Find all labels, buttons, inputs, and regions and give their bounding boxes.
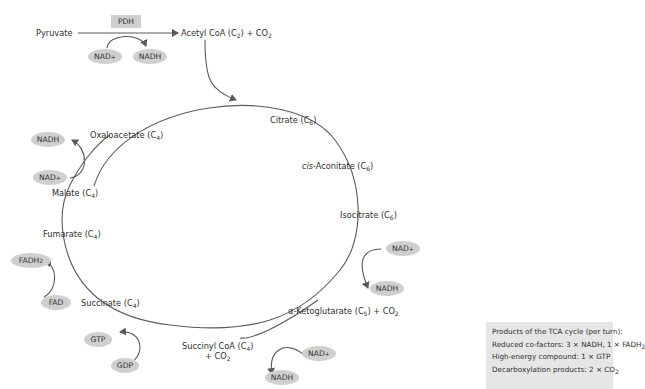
cis-prefix: cis bbox=[302, 161, 313, 171]
summary-line1-sub: 2 bbox=[641, 343, 645, 350]
isocitrate-text: Isocitrate (C bbox=[340, 210, 390, 220]
acetyl-coa-label: Acetyl CoA (C2) + CO2 bbox=[181, 28, 272, 38]
summary-line3-text: Decarboxylation products: 2 × CO bbox=[492, 365, 615, 374]
gdp-pill: GDP bbox=[111, 358, 139, 373]
nad-plus-pill-alpha-kg: NAD+ bbox=[302, 346, 336, 361]
summary-decarboxylation: Decarboxylation products: 2 × CO2 bbox=[492, 364, 613, 377]
succinyl-coa-co2: + CO bbox=[205, 351, 227, 361]
nad-text: NAD bbox=[94, 52, 111, 61]
pdh-enzyme-box: PDH bbox=[111, 15, 141, 28]
fumarate-text: Fumarate (C bbox=[43, 229, 94, 239]
acetyl-coa-text: Acetyl CoA (C bbox=[181, 28, 237, 38]
malate-text: Malate (C bbox=[52, 188, 91, 198]
pdh-text: PDH bbox=[118, 17, 134, 26]
gtp-pill: GTP bbox=[84, 332, 112, 347]
succinate-tail: ) bbox=[136, 298, 139, 308]
oxaloacetate-label: Oxaloacetate (C4) bbox=[90, 130, 163, 140]
fadh2-pill: FADH2 bbox=[11, 253, 51, 268]
summary-reduced-cofactors: Reduced co-factors: 3 × NADH, 1 × FADH2 bbox=[492, 339, 613, 352]
nadh-text: NADH bbox=[271, 373, 293, 382]
succinate-text: Succinate (C bbox=[81, 298, 133, 308]
gtp-text: GTP bbox=[91, 335, 106, 344]
nadh-pill-alpha-kg: NADH bbox=[265, 370, 299, 385]
nadh-pill-pdh: NADH bbox=[133, 49, 167, 64]
citrate-tail: ) bbox=[313, 115, 316, 125]
alpha-ketoglutarate-label: α-Ketoglutarate (C5) + CO2 bbox=[288, 306, 399, 316]
malate-tail: ) bbox=[95, 188, 98, 198]
summary-title: Products of the TCA cycle (per turn): bbox=[492, 326, 613, 339]
nad-plus-pill-isocitrate: NAD+ bbox=[386, 241, 420, 256]
malate-label: Malate (C4) bbox=[52, 188, 98, 198]
co2-sub: 2 bbox=[268, 32, 272, 39]
oxaloacetate-tail: ) bbox=[160, 130, 163, 140]
nadh-pill-malate: NADH bbox=[31, 132, 65, 147]
succinyl-coa-co2-sub: 2 bbox=[227, 355, 231, 362]
succinate-label: Succinate (C4) bbox=[81, 298, 140, 308]
succinyl-coa-text: Succinyl CoA (C bbox=[182, 341, 246, 351]
summary-line3-sub: 2 bbox=[615, 368, 619, 375]
nad-text: NAD bbox=[392, 244, 409, 253]
succinyl-coa-label: Succinyl CoA (C4) + CO2 bbox=[182, 341, 253, 361]
nadh-text: NADH bbox=[37, 135, 59, 144]
fad-pill: FAD bbox=[41, 295, 71, 310]
succinyl-coa-tail: ) bbox=[250, 341, 253, 351]
fad-text: FAD bbox=[49, 298, 64, 307]
pyruvate-text: Pyruvate bbox=[36, 28, 72, 38]
nad-text: NAD bbox=[308, 349, 325, 358]
cis-aconitate-text: -Aconitate (C bbox=[313, 161, 366, 171]
products-summary-box: Products of the TCA cycle (per turn): Re… bbox=[486, 322, 613, 389]
citrate-text: Citrate (C bbox=[270, 115, 309, 125]
oxaloacetate-text: Oxaloacetate (C bbox=[90, 130, 156, 140]
gdp-text: GDP bbox=[117, 361, 133, 370]
alpha-kg-tail: ) + CO bbox=[367, 306, 394, 316]
nad-plus-pill-malate: NAD+ bbox=[33, 170, 67, 185]
alpha-kg-co2-sub: 2 bbox=[395, 310, 399, 317]
nad-text: NAD bbox=[39, 173, 56, 182]
alpha-kg-text: α-Ketoglutarate (C bbox=[288, 306, 364, 316]
nadh-text: NADH bbox=[376, 284, 398, 293]
acetyl-coa-tail: ) + CO bbox=[241, 28, 268, 38]
nadh-pill-isocitrate: NADH bbox=[370, 281, 404, 296]
fumarate-label: Fumarate (C4) bbox=[43, 229, 101, 239]
summary-high-energy: High-energy compound: 1 × GTP bbox=[492, 351, 613, 364]
pyruvate-label: Pyruvate bbox=[36, 28, 72, 38]
nad-plus-pill-pdh: NAD+ bbox=[88, 49, 122, 64]
summary-line1-text: Reduced co-factors: 3 × NADH, 1 × FADH bbox=[492, 340, 641, 349]
fumarate-tail: ) bbox=[97, 229, 100, 239]
nadh-text: NADH bbox=[139, 52, 161, 61]
cis-aconitate-label: cis-Aconitate (C6) bbox=[302, 161, 373, 171]
isocitrate-tail: ) bbox=[394, 210, 397, 220]
citrate-label: Citrate (C6) bbox=[270, 115, 316, 125]
fadh-text: FADH bbox=[19, 256, 39, 265]
isocitrate-label: Isocitrate (C6) bbox=[340, 210, 397, 220]
cis-aconitate-tail: ) bbox=[370, 161, 373, 171]
